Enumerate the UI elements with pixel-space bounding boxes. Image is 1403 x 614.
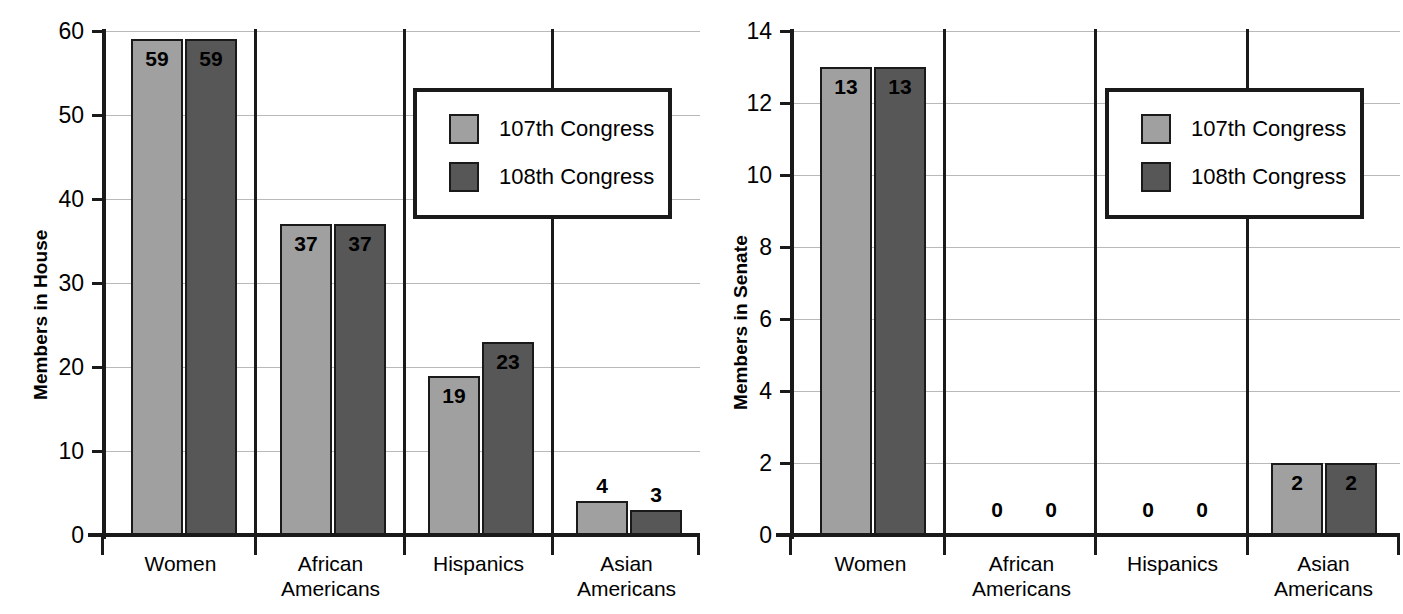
- category-label-asian-americans: Asian Americans: [1251, 551, 1396, 601]
- ytick-label-14: 14: [722, 20, 772, 43]
- legend-row-107[interactable]: 107th Congress: [449, 114, 654, 144]
- bar-house-african-americans-107[interactable]: [280, 224, 332, 535]
- legend-label-108: 108th Congress: [499, 166, 654, 188]
- ytick-label-10: 10: [722, 164, 772, 187]
- ytick-label-30: 30: [34, 272, 84, 295]
- bar-value-house-asian-americans-107: 4: [576, 475, 628, 496]
- category-separator-1: [943, 29, 946, 535]
- category-separator-1: [254, 29, 257, 535]
- bar-value-senate-hispanics-108: 0: [1176, 499, 1228, 520]
- xtick-mark-1: [254, 536, 257, 555]
- legend-row-108[interactable]: 108th Congress: [1141, 162, 1346, 192]
- xtick-mark-2: [1094, 536, 1097, 555]
- y-axis-line-house: [102, 29, 106, 539]
- legend-label-107: 107th Congress: [1191, 118, 1346, 140]
- category-label-african-americans: African Americans: [949, 551, 1094, 601]
- category-label-women: Women: [108, 551, 253, 576]
- ytick-label-4: 4: [722, 380, 772, 403]
- y-axis-line-senate: [790, 29, 794, 539]
- bar-value-senate-african-americans-107: 0: [971, 499, 1023, 520]
- bar-value-house-african-americans-108: 37: [334, 233, 386, 254]
- bar-house-women-108[interactable]: [185, 39, 237, 535]
- congress-membership-figure: Members in House 60 50 40 30 20 10 0: [0, 0, 1403, 614]
- bar-value-senate-african-americans-108: 0: [1025, 499, 1077, 520]
- bar-value-house-women-107: 59: [131, 48, 183, 69]
- xtick-mark-0: [101, 536, 104, 555]
- legend-swatch-107-icon: [1141, 114, 1171, 144]
- ytick-label-20: 20: [34, 356, 84, 379]
- xtick-mark-4: [1397, 536, 1400, 555]
- ytick-label-2: 2: [722, 452, 772, 475]
- chart-panel-senate: Members in Senate 14 12 10 8 6 4 2 0: [700, 0, 1403, 614]
- bar-senate-women-108[interactable]: [874, 67, 926, 535]
- bar-senate-women-107[interactable]: [820, 67, 872, 535]
- bar-house-asian-americans-108[interactable]: [630, 510, 682, 535]
- legend-swatch-108-icon: [1141, 162, 1171, 192]
- category-label-women: Women: [798, 551, 943, 576]
- xtick-mark-1: [943, 536, 946, 555]
- legend-label-108: 108th Congress: [1191, 166, 1346, 188]
- bar-house-asian-americans-107[interactable]: [576, 501, 628, 535]
- legend-house: 107th Congress 108th Congress: [413, 88, 672, 219]
- bar-value-senate-women-107: 13: [820, 76, 872, 97]
- bar-value-senate-hispanics-107: 0: [1122, 499, 1174, 520]
- ytick-label-6: 6: [722, 308, 772, 331]
- bar-value-house-women-108: 59: [185, 48, 237, 69]
- xtick-mark-0: [789, 536, 792, 555]
- ytick-label-10: 10: [34, 440, 84, 463]
- bar-value-house-african-americans-107: 37: [280, 233, 332, 254]
- chart-panel-house: Members in House 60 50 40 30 20 10 0: [0, 0, 700, 614]
- ytick-label-0: 0: [34, 524, 84, 547]
- bar-value-senate-women-108: 13: [874, 76, 926, 97]
- category-label-hispanics: Hispanics: [406, 551, 551, 576]
- bar-value-senate-asian-americans-108: 2: [1325, 472, 1377, 493]
- bar-value-house-hispanics-108: 23: [482, 351, 534, 372]
- legend-swatch-108-icon: [449, 162, 479, 192]
- category-label-african-americans: African Americans: [258, 551, 403, 601]
- bar-value-house-hispanics-107: 19: [428, 385, 480, 406]
- gridline-60: [104, 31, 700, 32]
- category-label-hispanics: Hispanics: [1100, 551, 1245, 576]
- ytick-label-12: 12: [722, 92, 772, 115]
- bar-value-house-asian-americans-108: 3: [630, 484, 682, 505]
- legend-row-107[interactable]: 107th Congress: [1141, 114, 1346, 144]
- legend-senate: 107th Congress 108th Congress: [1105, 88, 1364, 219]
- category-separator-2: [403, 29, 406, 535]
- ytick-label-0: 0: [722, 524, 772, 547]
- xtick-mark-3: [1246, 536, 1249, 555]
- ytick-label-60: 60: [34, 20, 84, 43]
- ytick-label-8: 8: [722, 236, 772, 259]
- legend-row-108[interactable]: 108th Congress: [449, 162, 654, 192]
- legend-swatch-107-icon: [449, 114, 479, 144]
- legend-label-107: 107th Congress: [499, 118, 654, 140]
- ytick-label-50: 50: [34, 104, 84, 127]
- category-label-asian-americans: Asian Americans: [554, 551, 699, 601]
- ytick-label-40: 40: [34, 188, 84, 211]
- bar-house-women-107[interactable]: [131, 39, 183, 535]
- bar-house-african-americans-108[interactable]: [334, 224, 386, 535]
- category-separator-2: [1094, 29, 1097, 535]
- bar-value-senate-asian-americans-107: 2: [1271, 472, 1323, 493]
